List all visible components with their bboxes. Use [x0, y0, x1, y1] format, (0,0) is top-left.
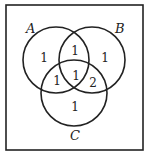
region-b-only: 1	[101, 51, 109, 65]
region-bc-only: 2	[89, 76, 97, 90]
region-a-only: 1	[40, 51, 48, 65]
venn-diagram: A B C 1 1 1 1 1 2 1	[0, 0, 148, 157]
region-c-only: 1	[71, 100, 79, 114]
label-b: B	[114, 21, 125, 36]
region-abc: 1	[72, 69, 80, 83]
label-c: C	[70, 128, 80, 143]
region-ac-only: 1	[53, 74, 61, 88]
label-a: A	[25, 21, 35, 36]
region-ab-only: 1	[71, 44, 79, 58]
